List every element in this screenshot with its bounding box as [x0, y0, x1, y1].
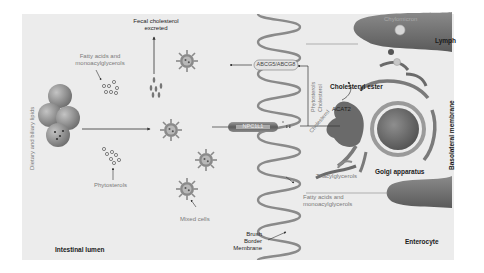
enterocyte-fatty-acids-label: Fatty acids and monoacylglycerols: [303, 194, 352, 208]
cholesterol-pellets: [150, 77, 163, 98]
fecal-label-line1: Fecal cholesterol: [127, 18, 185, 25]
fecal-cholesterol-label: Fecal cholesterol excreted: [127, 18, 185, 32]
mixed-cells-label: Mixed cells: [180, 216, 210, 223]
abcg5-abcg8-label: ABCG5/ABCG8: [254, 60, 298, 69]
phytosterols-enterocyte-label: Phytosterols: [310, 82, 317, 112]
npc1l1-label: NPC1L1: [228, 122, 278, 131]
lymph-label: Lymph: [435, 37, 456, 44]
dietary-lipids-label: Dietary and biliary lipids: [29, 107, 36, 170]
acat2-label: ACAT2: [332, 106, 351, 113]
cholesteryl-ester-label: Cholesteryl ester: [330, 83, 383, 90]
phytosterol-dots: [102, 147, 120, 164]
enterocyte-fatty-line2: monoacylglycerols: [303, 201, 352, 208]
brush-border-membrane: [258, 14, 300, 260]
brush-border-label: Brush Border Membrane: [232, 231, 262, 252]
fatty-acid-dots: [102, 80, 118, 94]
enterocyte-fatty-line1: Fatty acids and: [303, 194, 352, 201]
membrane-line: Membrane: [232, 245, 262, 252]
triacylglycerols-label: Triacylglycerols: [316, 173, 357, 180]
cholesterol-up-label: Cholesterol: [317, 84, 324, 112]
phytosterols-lumen-label: Phytosterols: [94, 182, 127, 189]
enterocyte-label: Enterocyte: [405, 238, 439, 245]
border-line: Border: [232, 238, 262, 245]
fatty-acids-line2: monoacylglycerols: [70, 60, 130, 67]
lumen-fatty-acids-label: Fatty acids and monoacylglycerols: [70, 53, 130, 67]
golgi-apparatus: [327, 59, 435, 173]
chylomicron-label: Chylomicron: [384, 16, 417, 23]
golgi-apparatus-label: Golgi apparatus: [375, 168, 424, 175]
brush-line: Brush: [232, 231, 262, 238]
fecal-label-line2: excreted: [127, 25, 185, 32]
fatty-acids-line1: Fatty acids and: [70, 53, 130, 60]
intestinal-lumen-label: Intestinal lumen: [55, 246, 104, 253]
basolateral-membrane-label: Basolateral membrane: [448, 100, 455, 170]
dietary-lipid-droplets: [38, 84, 80, 147]
